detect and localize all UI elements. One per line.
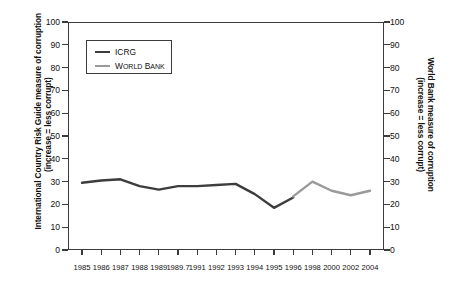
- y-axis-left-title: International Country Risk Guide measure…: [34, 20, 53, 230]
- legend-swatch-icrg: [95, 51, 110, 54]
- x-tick-mark: [331, 250, 332, 255]
- y-tick-label-left: 20: [34, 199, 60, 209]
- x-tick-mark: [312, 250, 313, 255]
- y-tick-label-right: 10: [390, 222, 416, 232]
- y-tick-label-left: 90: [34, 40, 60, 50]
- y-tick-mark-left: [62, 21, 68, 22]
- y-tick-mark-left: [62, 204, 68, 205]
- y-axis-right-title-line1: World Bank measure of corruption: [426, 57, 436, 191]
- x-tick-mark: [101, 250, 102, 255]
- y-tick-label-right: 20: [390, 199, 416, 209]
- legend-item-world-bank: WORLD BANK: [95, 60, 171, 72]
- x-tick-mark: [81, 250, 82, 255]
- legend-label-wb-orld: ORLD: [123, 63, 142, 70]
- y-tick-mark-left: [62, 158, 68, 159]
- chart-legend: ICRG WORLD BANK: [86, 40, 172, 74]
- y-tick-label-left: 30: [34, 177, 60, 187]
- x-tick-mark: [139, 250, 140, 255]
- y-axis-right-title-line2: (increase = less corrupt): [415, 20, 425, 230]
- y-tick-label-left: 40: [34, 154, 60, 164]
- x-tick-mark: [177, 250, 178, 255]
- y-tick-label-left: 60: [34, 108, 60, 118]
- y-tick-mark-left: [62, 135, 68, 136]
- x-tick-mark: [254, 250, 255, 255]
- x-tick-mark: [120, 250, 121, 255]
- x-tick-mark: [273, 250, 274, 255]
- x-tick-label: 2004: [350, 263, 390, 272]
- y-tick-label-right: 70: [390, 85, 416, 95]
- y-tick-label-right: 0: [390, 245, 416, 255]
- legend-label-wb-w: W: [115, 61, 123, 71]
- y-tick-label-left: 80: [34, 63, 60, 73]
- y-tick-label-right: 100: [390, 17, 416, 27]
- x-tick-mark: [216, 250, 217, 255]
- y-tick-label-right: 60: [390, 108, 416, 118]
- y-tick-mark-left: [62, 227, 68, 228]
- y-tick-label-left: 70: [34, 85, 60, 95]
- x-tick-mark: [235, 250, 236, 255]
- y-tick-label-right: 40: [390, 154, 416, 164]
- legend-swatch-world-bank: [95, 65, 110, 68]
- x-tick-mark: [293, 250, 294, 255]
- y-axis-left-title-line2: (increase = less corrupt): [44, 20, 54, 230]
- legend-label-wb-ank: ANK: [150, 63, 164, 70]
- legend-label-icrg: ICRG: [115, 47, 136, 57]
- chart-figure: International Country Risk Guide measure…: [0, 0, 452, 291]
- legend-item-icrg: ICRG: [95, 46, 171, 58]
- x-tick-mark: [158, 250, 159, 255]
- y-tick-mark-left: [62, 181, 68, 182]
- y-tick-label-right: 30: [390, 177, 416, 187]
- y-tick-mark-left: [62, 67, 68, 68]
- legend-label-world-bank: WORLD BANK: [115, 61, 165, 71]
- y-axis-right-title: World Bank measure of corruption (increa…: [415, 20, 434, 230]
- y-tick-label-right: 80: [390, 63, 416, 73]
- y-tick-label-left: 100: [34, 17, 60, 27]
- x-tick-mark: [350, 250, 351, 255]
- y-tick-label-right: 50: [390, 131, 416, 141]
- y-tick-mark-left: [62, 249, 68, 250]
- y-tick-mark-left: [62, 90, 68, 91]
- y-tick-mark-left: [62, 44, 68, 45]
- x-tick-mark: [197, 250, 198, 255]
- y-tick-label-left: 10: [34, 222, 60, 232]
- y-tick-label-left: 50: [34, 131, 60, 141]
- x-tick-mark: [369, 250, 370, 255]
- y-tick-label-right: 90: [390, 40, 416, 50]
- y-tick-mark-left: [62, 113, 68, 114]
- y-tick-label-left: 0: [34, 245, 60, 255]
